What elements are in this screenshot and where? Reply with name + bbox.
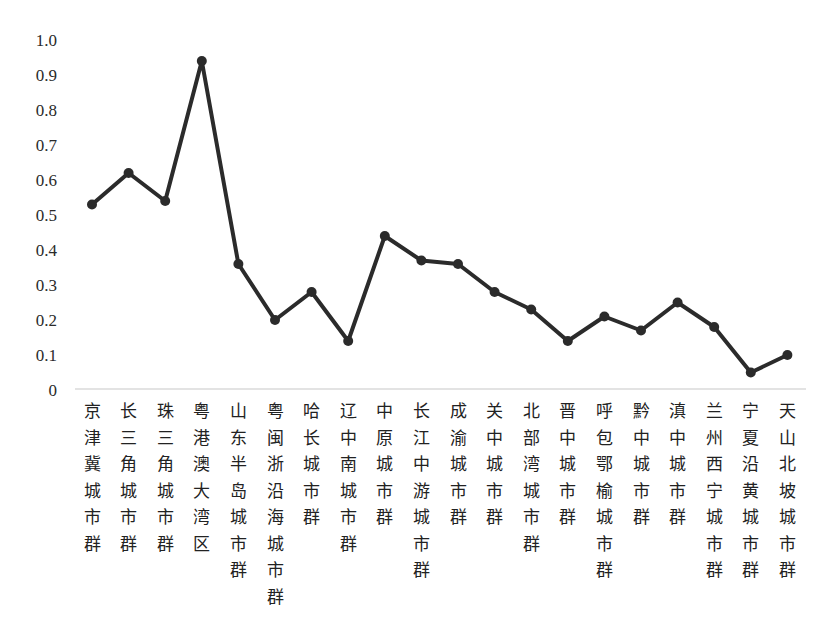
data-point [124, 168, 134, 178]
data-point-markers [87, 56, 792, 378]
data-point [160, 196, 170, 206]
x-tick-label: 哈长城市群 [300, 398, 324, 531]
x-tick-label: 成渝城市群 [446, 398, 470, 531]
y-tick-label: 0 [49, 381, 58, 400]
data-point [490, 287, 500, 297]
x-tick-label: 兰州西宁城市群 [702, 398, 726, 584]
series-line [92, 61, 787, 373]
data-point [709, 322, 719, 332]
x-tick-label: 关中城市群 [483, 398, 507, 531]
y-tick-label: 0.2 [36, 311, 57, 330]
data-point [343, 336, 353, 346]
x-tick-label: 珠三角城市群 [153, 398, 177, 557]
y-tick-label: 0.1 [36, 346, 57, 365]
y-tick-label: 0.3 [36, 276, 57, 295]
y-axis: 00.10.20.30.40.50.60.70.80.91.0 [36, 31, 58, 400]
x-tick-label: 晋中城市群 [556, 398, 580, 531]
x-tick-label: 呼包鄂榆城市群 [592, 398, 616, 584]
x-tick-label: 天山北坡城市群 [775, 398, 799, 584]
x-tick-label: 滇中城市群 [666, 398, 690, 531]
data-point [307, 287, 317, 297]
data-point [270, 315, 280, 325]
data-point [380, 231, 390, 241]
data-point [782, 350, 792, 360]
data-point [87, 200, 97, 210]
y-tick-label: 0.9 [36, 66, 57, 85]
data-point [746, 368, 756, 378]
data-point [563, 336, 573, 346]
data-point [526, 305, 536, 315]
data-point [233, 259, 243, 269]
y-tick-label: 0.4 [36, 241, 58, 260]
x-tick-label: 北部湾城市群 [519, 398, 543, 557]
y-tick-label: 0.7 [36, 136, 58, 155]
data-point [416, 256, 426, 266]
data-point [636, 326, 646, 336]
x-tick-label: 长三角城市群 [117, 398, 141, 557]
x-tick-label: 黔中城市群 [629, 398, 653, 531]
data-point [453, 259, 463, 269]
data-point [197, 56, 207, 66]
y-tick-label: 0.5 [36, 206, 57, 225]
x-tick-label: 宁夏沿黄城市群 [739, 398, 763, 584]
y-tick-label: 0.6 [36, 171, 57, 190]
line-chart: 00.10.20.30.40.50.60.70.80.91.0 [0, 0, 837, 400]
y-tick-label: 0.8 [36, 101, 57, 120]
x-tick-label: 山东半岛城市群 [226, 398, 250, 584]
x-tick-label: 中原城市群 [373, 398, 397, 531]
x-tick-label: 京津冀城市群 [80, 398, 104, 557]
x-tick-label: 长江中游城市群 [409, 398, 433, 584]
x-tick-label: 粤港澳大湾区 [190, 398, 214, 557]
y-tick-label: 1.0 [36, 31, 57, 50]
x-tick-label: 辽中南城市群 [336, 398, 360, 557]
data-point [673, 298, 683, 308]
data-point [599, 312, 609, 322]
x-tick-label: 粤闽浙沿海城市群 [263, 398, 287, 610]
